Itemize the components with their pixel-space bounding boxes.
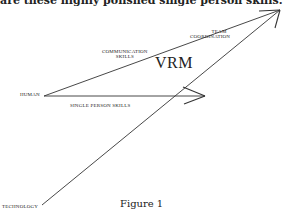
label-team-coordination: TEAM COORDINATION [190, 29, 230, 39]
vector-human-team-coordination [44, 10, 280, 96]
label-single-person-skills: SINGLE PERSON SKILLS [70, 103, 130, 108]
vrm-title: VRM [155, 54, 193, 72]
figure-page: are these highly polished single person … [0, 0, 283, 220]
figure-caption: Figure 1 [120, 198, 163, 209]
vector-diagram [0, 0, 283, 220]
label-human: HUMAN [20, 92, 40, 97]
label-communication-skills: COMMUNICATION SKILLS [102, 49, 148, 59]
arrowhead-icon [183, 87, 205, 104]
label-technology: TECHNOLOGY [2, 204, 38, 209]
